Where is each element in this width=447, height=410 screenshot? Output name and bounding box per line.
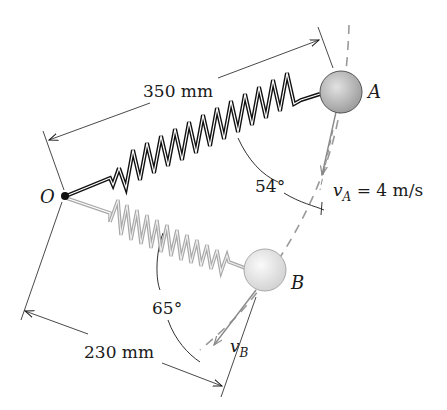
particle-a xyxy=(320,71,362,113)
velocity-arrow-a xyxy=(320,112,336,190)
velocity-label-b: vB xyxy=(230,336,249,360)
spring-particle-diagram: 350 mm 230 mm 54° 65° xyxy=(0,0,447,410)
pivot-o xyxy=(61,192,69,200)
label-o: O xyxy=(40,186,55,207)
label-b: B xyxy=(290,272,304,293)
dimension-label-350: 350 mm xyxy=(143,81,213,101)
angle-label-54: 54° xyxy=(255,176,285,196)
angle-arc-a: 54° xyxy=(238,138,324,215)
particle-b xyxy=(244,249,286,291)
dimension-350mm: 350 mm xyxy=(43,27,333,190)
dimension-label-230: 230 mm xyxy=(84,342,154,362)
angle-label-65: 65° xyxy=(152,298,182,318)
label-a: A xyxy=(366,81,381,102)
spring-b xyxy=(66,198,245,272)
velocity-label-a: vA = 4 m/s xyxy=(333,180,423,204)
